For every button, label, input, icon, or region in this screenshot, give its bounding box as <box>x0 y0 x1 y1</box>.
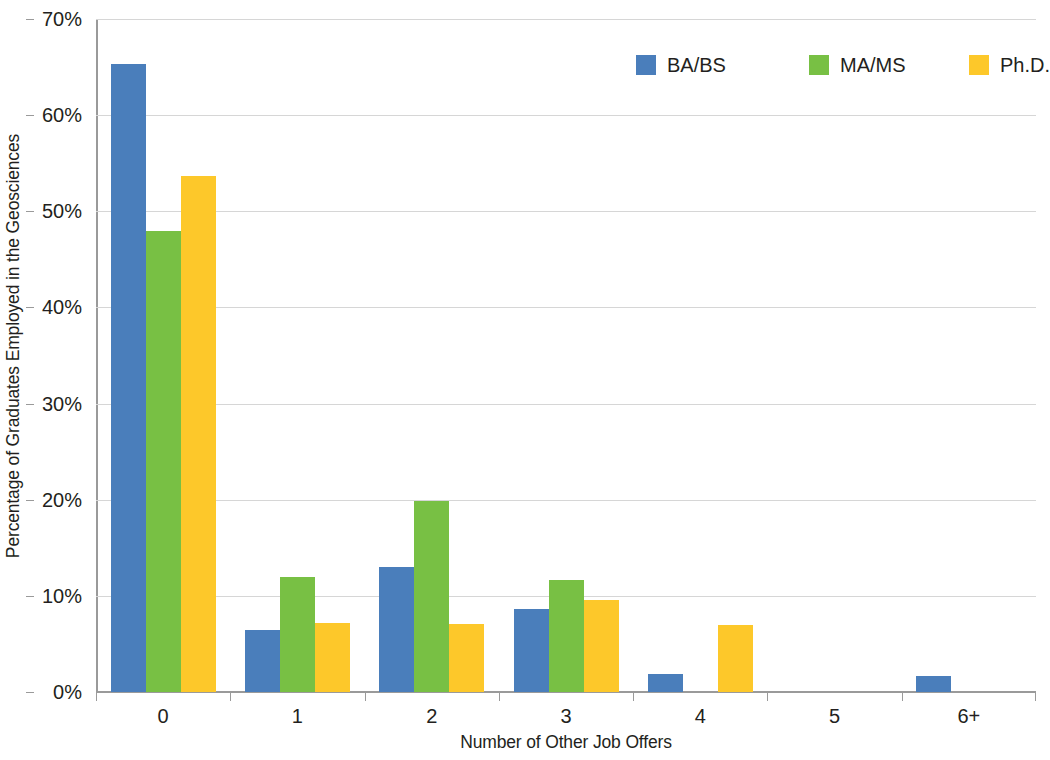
x-tick-label: 1 <box>230 704 364 728</box>
bar[interactable] <box>718 625 753 692</box>
y-tick-mark <box>26 596 34 597</box>
y-tick-label: 50% <box>42 201 82 221</box>
gridline <box>96 211 1036 212</box>
y-axis-line <box>96 19 98 692</box>
legend-item-ba-bs[interactable]: BA/BS <box>636 52 726 78</box>
legend-label: BA/BS <box>667 54 726 76</box>
plot-area <box>96 19 1036 692</box>
bar[interactable] <box>181 176 216 692</box>
x-tick-label: 0 <box>96 704 230 728</box>
x-tick-mark <box>365 692 366 701</box>
gridline <box>96 307 1036 308</box>
y-tick-label: 20% <box>42 490 82 510</box>
y-tick-mark <box>26 19 34 20</box>
y-tick-mark <box>26 115 34 116</box>
x-tick-mark <box>230 692 231 701</box>
x-tick-label: 5 <box>767 704 901 728</box>
x-tick-mark <box>633 692 634 701</box>
bar[interactable] <box>514 609 549 692</box>
bar[interactable] <box>648 674 683 692</box>
bar[interactable] <box>916 676 951 692</box>
bar[interactable] <box>584 600 619 692</box>
x-tick-label: 3 <box>499 704 633 728</box>
x-tick-mark <box>902 692 903 701</box>
y-tick-mark <box>26 307 34 308</box>
y-tick-mark <box>26 692 34 693</box>
x-tick-mark <box>1035 692 1036 701</box>
bar[interactable] <box>315 623 350 692</box>
x-axis-title: Number of Other Job Offers <box>96 731 1036 753</box>
legend-color-swatch <box>809 55 829 75</box>
bar[interactable] <box>379 567 414 692</box>
bar[interactable] <box>280 577 315 692</box>
gridline <box>96 19 1036 20</box>
x-tick-mark <box>96 692 97 701</box>
legend-label: Ph.D. <box>1000 54 1050 76</box>
y-tick-label: 10% <box>42 586 82 606</box>
legend-label: MA/MS <box>840 54 906 76</box>
x-tick-label: 6+ <box>902 704 1036 728</box>
y-tick-mark <box>26 404 34 405</box>
bar[interactable] <box>146 231 181 692</box>
y-tick-label: 40% <box>42 297 82 317</box>
y-tick-label: 70% <box>42 9 82 29</box>
y-tick-label: 60% <box>42 105 82 125</box>
legend-color-swatch <box>969 55 989 75</box>
bar[interactable] <box>111 64 146 692</box>
gridline <box>96 115 1036 116</box>
gridline <box>96 404 1036 405</box>
bar[interactable] <box>549 580 584 692</box>
bar[interactable] <box>245 630 280 692</box>
x-tick-mark <box>499 692 500 701</box>
legend-item-ma-ms[interactable]: MA/MS <box>809 52 906 78</box>
y-tick-label: 30% <box>42 394 82 414</box>
bar[interactable] <box>449 624 484 692</box>
x-tick-label: 2 <box>365 704 499 728</box>
bar[interactable] <box>414 501 449 692</box>
legend-item-ph-d[interactable]: Ph.D. <box>969 52 1050 78</box>
y-axis-title: Percentage of Graduates Employed in the … <box>0 0 26 692</box>
x-tick-label: 4 <box>633 704 767 728</box>
legend-color-swatch <box>636 55 656 75</box>
y-tick-label: 0% <box>53 682 82 702</box>
x-tick-mark <box>767 692 768 701</box>
gridline <box>96 500 1036 501</box>
y-axis-tick-labels: 0%10%20%30%40%50%60%70% <box>26 0 88 760</box>
y-tick-mark <box>26 500 34 501</box>
y-tick-mark <box>26 211 34 212</box>
